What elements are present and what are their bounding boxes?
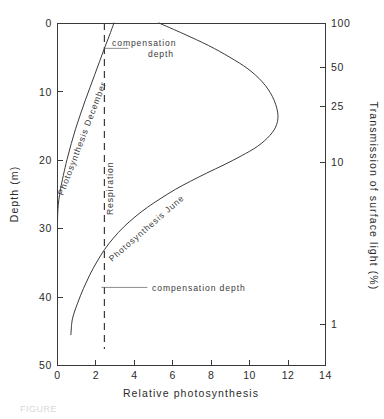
left-axis-tick-labels: 0 10 20 30 40 50 (39, 17, 52, 371)
right-axis-title: Transmission of surface light (%) (368, 102, 380, 291)
x-tick-label-12: 12 (282, 369, 295, 381)
bottom-axis-tick-labels: 0 2 4 6 8 10 12 14 (54, 369, 332, 381)
compensation-depth-lower-label: compensation depth (152, 283, 246, 293)
left-axis-title: Depth (m) (8, 166, 20, 223)
right-tick-label-10: 10 (331, 156, 344, 168)
right-tick-label-1: 1 (331, 318, 337, 330)
bottom-axis-ticks (58, 360, 326, 366)
right-tick-label-100: 100 (331, 17, 350, 29)
right-axis-ticks (320, 24, 326, 325)
left-tick-label-20: 20 (39, 154, 52, 166)
compensation-depth-upper-label-line1: compensation (112, 38, 176, 48)
x-tick-label-10: 10 (243, 369, 256, 381)
left-tick-label-30: 30 (39, 222, 52, 234)
x-axis-title: Relative photosynthesis (123, 387, 259, 399)
x-tick-label-14: 14 (319, 369, 332, 381)
x-tick-label-8: 8 (208, 369, 214, 381)
left-tick-label-40: 40 (39, 291, 52, 303)
axis-frame (57, 23, 326, 366)
left-tick-label-0: 0 (46, 17, 52, 29)
annotation-compensation-depth-lower: compensation depth (101, 283, 245, 293)
respiration-line-label: Respiration (105, 162, 115, 215)
right-axis-tick-labels: 100 50 25 10 1 (331, 17, 350, 330)
figure-caption: FIGURE (20, 404, 57, 414)
right-tick-label-25: 25 (331, 100, 344, 112)
x-tick-label-2: 2 (93, 369, 99, 381)
annotation-compensation-depth-upper: compensation depth (104, 38, 176, 59)
photosynthesis-depth-chart: 0 10 20 30 40 50 Depth (m) 100 50 25 10 … (0, 0, 384, 419)
x-tick-label-4: 4 (131, 369, 137, 381)
left-tick-label-10: 10 (39, 86, 52, 98)
compensation-depth-upper-label-line2: depth (148, 49, 174, 59)
left-tick-label-50: 50 (39, 359, 52, 371)
x-tick-label-0: 0 (54, 369, 60, 381)
right-tick-label-50: 50 (331, 61, 344, 73)
figure-root: 0 10 20 30 40 50 Depth (m) 100 50 25 10 … (0, 0, 384, 419)
curve-label-photosynthesis-june: Photosynthesis June (107, 193, 186, 264)
x-tick-label-6: 6 (170, 369, 176, 381)
curve-label-photosynthesis-december: Photosynthesis December (56, 80, 109, 197)
